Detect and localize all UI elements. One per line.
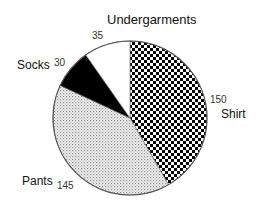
pie-slices xyxy=(53,41,207,195)
value-shirt: 150 xyxy=(210,94,227,105)
label-shirt: Shirt xyxy=(221,107,246,121)
value-undergarments: 35 xyxy=(92,30,103,41)
label-undergarments: Undergarments xyxy=(107,12,197,27)
value-socks: 30 xyxy=(54,57,65,68)
value-pants: 145 xyxy=(57,180,74,191)
label-pants: Pants xyxy=(22,174,53,188)
label-socks: Socks xyxy=(17,58,50,72)
